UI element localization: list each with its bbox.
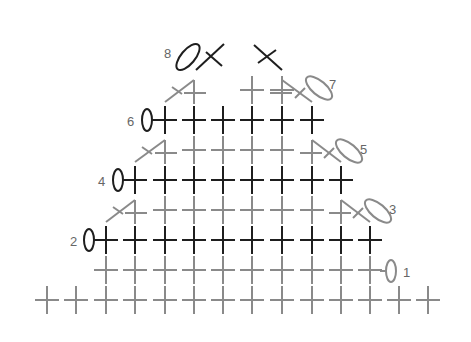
single-crochet-icon	[211, 166, 235, 194]
single-crochet-icon	[240, 226, 264, 254]
row-1: 1	[94, 256, 410, 284]
single-crochet-icon	[358, 226, 382, 254]
row-number-label: 3	[389, 202, 396, 217]
row-number-label: 2	[70, 234, 77, 249]
slip-stitch-x-icon	[254, 45, 282, 70]
single-crochet-icon	[182, 256, 206, 284]
single-crochet-icon	[153, 256, 177, 284]
single-crochet-icon	[270, 256, 294, 284]
single-crochet-icon	[300, 166, 324, 194]
row-number-label: 1	[403, 265, 410, 280]
row-0	[35, 286, 440, 314]
single-crochet-icon	[64, 286, 88, 314]
decrease-right-icon	[300, 140, 341, 164]
single-crochet-icon	[329, 256, 353, 284]
single-crochet-icon	[211, 136, 235, 164]
single-crochet-icon	[153, 196, 177, 224]
single-crochet-icon	[329, 166, 353, 194]
single-crochet-icon	[329, 286, 353, 314]
stitch-diagram: 12345678	[0, 0, 471, 342]
single-crochet-icon	[211, 226, 235, 254]
row-number-label: 7	[329, 77, 336, 92]
decrease-right-icon	[329, 200, 370, 224]
stitch-rows: 12345678	[35, 40, 440, 314]
decrease-left-icon	[165, 80, 206, 104]
single-crochet-icon	[300, 106, 324, 134]
single-crochet-icon	[240, 196, 264, 224]
single-crochet-icon	[270, 286, 294, 314]
dec-diagonal	[106, 200, 135, 222]
single-crochet-icon	[240, 106, 264, 134]
dec-diagonal	[165, 80, 194, 102]
single-crochet-icon	[153, 286, 177, 314]
single-crochet-icon	[211, 196, 235, 224]
row-number-label: 6	[127, 114, 134, 129]
single-crochet-icon	[270, 226, 294, 254]
single-crochet-icon	[182, 166, 206, 194]
single-crochet-icon	[270, 106, 294, 134]
single-crochet-icon	[300, 226, 324, 254]
single-crochet-icon	[35, 286, 59, 314]
single-crochet-icon	[94, 286, 118, 314]
row-3: 3	[106, 195, 396, 226]
single-crochet-icon	[387, 286, 411, 314]
chain-stitch-icon	[386, 260, 396, 282]
single-crochet-icon	[182, 136, 206, 164]
single-crochet-icon	[182, 106, 206, 134]
single-crochet-icon	[94, 256, 118, 284]
row-4: 4	[98, 166, 353, 194]
single-crochet-icon	[240, 286, 264, 314]
chain-stitch-icon	[113, 169, 123, 191]
row-5: 5	[135, 135, 367, 166]
single-crochet-icon	[153, 166, 177, 194]
single-crochet-icon	[240, 166, 264, 194]
single-crochet-icon	[270, 136, 294, 164]
row-number-label: 5	[360, 142, 367, 157]
single-crochet-icon	[300, 286, 324, 314]
single-crochet-icon	[153, 226, 177, 254]
single-crochet-icon	[300, 196, 324, 224]
single-crochet-icon	[358, 286, 382, 314]
single-crochet-icon	[211, 286, 235, 314]
chain-stitch-icon	[142, 109, 152, 131]
decrease-left-icon	[135, 140, 177, 164]
single-crochet-icon	[211, 106, 235, 134]
x-stroke-a	[254, 45, 282, 70]
single-crochet-icon	[123, 256, 147, 284]
single-crochet-icon	[270, 196, 294, 224]
single-crochet-icon	[182, 226, 206, 254]
row-6: 6	[127, 106, 324, 134]
single-crochet-icon	[123, 226, 147, 254]
single-crochet-icon	[358, 256, 382, 284]
single-crochet-icon	[270, 166, 294, 194]
single-crochet-icon	[211, 256, 235, 284]
single-crochet-icon	[300, 256, 324, 284]
single-crochet-icon	[240, 136, 264, 164]
dec-diagonal	[135, 140, 165, 162]
chain-stitch-icon	[172, 40, 203, 74]
row-2: 2	[70, 226, 382, 254]
row-8: 8	[164, 40, 282, 74]
single-crochet-icon	[182, 286, 206, 314]
single-crochet-icon	[182, 196, 206, 224]
row-7: 7	[165, 72, 336, 104]
single-crochet-icon	[240, 76, 264, 104]
single-crochet-icon	[123, 286, 147, 314]
decrease-left-icon	[106, 200, 147, 224]
single-crochet-icon	[329, 226, 353, 254]
row-number-label: 4	[98, 174, 105, 189]
single-crochet-icon	[416, 286, 440, 314]
single-crochet-icon	[240, 256, 264, 284]
row-number-label: 8	[164, 46, 171, 61]
chain-stitch-icon	[84, 229, 94, 251]
